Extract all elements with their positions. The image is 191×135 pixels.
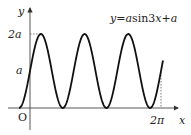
sine-curve	[19, 34, 163, 108]
tick-a: a	[16, 64, 23, 77]
equation-label: y=asin3x+a	[109, 12, 177, 25]
tick-2pi: 2π	[149, 114, 165, 127]
origin-label: O	[18, 111, 27, 124]
graph: y x O 2a a 2π y=asin3x+a	[0, 0, 191, 135]
tick-2a: 2a	[7, 28, 22, 41]
y-axis-label: y	[17, 5, 25, 18]
x-axis-label: x	[179, 114, 186, 127]
